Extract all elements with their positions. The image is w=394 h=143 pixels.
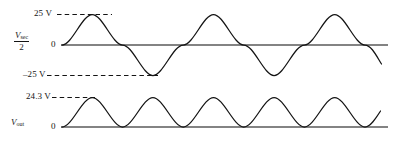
fraction-numerator: Vsec xyxy=(14,31,29,42)
bottom-plot-group xyxy=(52,98,388,128)
output-voltage-subscript: out xyxy=(17,121,25,127)
rectified-output-waveform xyxy=(62,98,381,128)
fraction-denominator: 2 xyxy=(14,42,29,52)
label-bottom-zero: 0 xyxy=(51,122,56,131)
waveform-svg xyxy=(0,0,394,143)
fraction-numerator-subscript: sec xyxy=(21,34,29,40)
label-output-voltage: Vout xyxy=(11,118,24,127)
label-output-peak-value: 24.3 V xyxy=(26,92,51,101)
top-plot-group xyxy=(47,15,388,76)
label-positive-peak-value: 25 V xyxy=(34,9,52,18)
label-secondary-voltage-fraction: Vsec 2 xyxy=(14,31,29,52)
label-top-zero: 0 xyxy=(51,40,56,49)
label-negative-peak-value: –25 V xyxy=(23,70,46,79)
rectifier-waveform-figure: 25 V –25 V 0 24.3 V 0 Vsec 2 Vout xyxy=(0,0,394,143)
